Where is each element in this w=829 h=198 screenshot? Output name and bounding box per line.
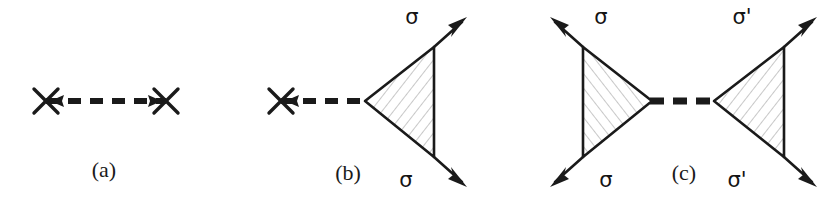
figure-container: (a) σ σ (b) — [0, 0, 829, 198]
panel-caption-b: (b) — [335, 160, 361, 185]
spin-label-sigmaprime-upper-c: σ' — [732, 5, 751, 29]
feynman-diagram-figure: (a) σ σ (b) — [0, 0, 829, 198]
spin-label-sigmaprime-lower-c: σ' — [727, 168, 746, 192]
spin-label-sigma-lower-c: σ — [599, 168, 612, 192]
spin-label-sigma-lower-b: σ — [399, 168, 412, 192]
spin-label-sigma-upper-c: σ — [594, 5, 607, 29]
spin-label-sigma-upper-b: σ — [405, 5, 418, 29]
panel-caption-c: (c) — [672, 160, 696, 185]
panel-caption-a: (a) — [92, 157, 116, 182]
